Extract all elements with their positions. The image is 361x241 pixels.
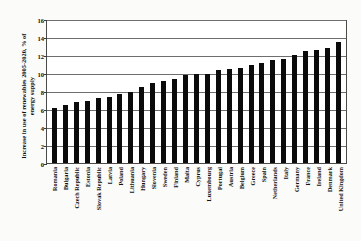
bar-cell	[300, 21, 311, 163]
bar	[336, 42, 341, 164]
bar-cell	[115, 21, 126, 163]
x-tick-label: Czech Republic	[72, 167, 79, 208]
x-tick-label: United Kingdom	[336, 167, 343, 211]
bar	[74, 102, 79, 163]
bar	[172, 79, 177, 163]
x-tick-label: Austria	[226, 167, 233, 187]
x-tick-label: Poland	[116, 167, 123, 186]
x-label-cell: Romania	[48, 166, 59, 240]
x-tick-label: Slovak Republic	[94, 167, 101, 210]
bar	[227, 69, 232, 164]
bar	[161, 81, 166, 163]
bar-cell	[322, 21, 333, 163]
x-tick-label: Romania	[50, 167, 57, 191]
x-label-cell: Czech Republic	[70, 166, 81, 240]
bar	[238, 68, 243, 163]
bar	[216, 70, 221, 163]
bar	[107, 97, 112, 163]
bar-cell	[202, 21, 213, 163]
bar	[314, 50, 319, 163]
bar-cell	[82, 21, 93, 163]
bar	[150, 83, 155, 163]
bar-cell	[257, 21, 268, 163]
bar-cell	[71, 21, 82, 163]
x-tick-label: Hungary	[138, 167, 145, 191]
x-label-cell: Hungary	[136, 166, 147, 240]
x-tick-label: Portugal	[215, 167, 222, 190]
x-axis-tick-labels: RomaniaBulgariaCzech RepublicEstoniaSlov…	[46, 166, 347, 240]
bar	[325, 48, 330, 163]
x-label-cell: Spain	[257, 166, 268, 240]
x-tick-label: Finland	[171, 167, 178, 188]
x-tick-label: Italy	[281, 167, 288, 179]
x-label-cell: France	[301, 166, 312, 240]
y-tick-label-2: 2	[30, 143, 44, 150]
x-label-cell: Slovak Republic	[92, 166, 103, 240]
x-label-cell: Austria	[224, 166, 235, 240]
x-tick-label: Netherlands	[270, 167, 277, 199]
x-tick-label: Latvia	[105, 167, 112, 184]
x-tick-label: Malta	[182, 167, 189, 183]
bar-cell	[311, 21, 322, 163]
x-tick-label: Ireland	[314, 167, 321, 186]
bar-series	[47, 21, 346, 163]
bar-cell	[235, 21, 246, 163]
bar-cell	[180, 21, 191, 163]
x-label-cell: Denmark	[323, 166, 334, 240]
bar-cell	[333, 21, 344, 163]
y-tick-label-10: 10	[30, 71, 44, 78]
bar	[281, 59, 286, 163]
y-tick-label-6: 6	[30, 107, 44, 114]
bar	[205, 74, 210, 163]
x-label-cell: Sweden	[158, 166, 169, 240]
x-tick-label: Lithuania	[127, 167, 134, 193]
x-label-cell: Bulgaria	[59, 166, 70, 240]
plot-area	[46, 20, 347, 164]
bar-cell	[60, 21, 71, 163]
bar	[249, 65, 254, 163]
bar	[183, 75, 188, 163]
bar	[63, 105, 68, 164]
x-label-cell: Lithuania	[125, 166, 136, 240]
x-label-cell: Greece	[246, 166, 257, 240]
x-tick-label: Germany	[292, 167, 299, 192]
bar-cell	[147, 21, 158, 163]
bar	[139, 87, 144, 164]
x-tick-label: Belgium	[237, 167, 244, 189]
y-tick-label-0: 0	[30, 161, 44, 168]
y-tick-label-14: 14	[30, 35, 44, 42]
x-label-cell: United Kingdom	[334, 166, 345, 240]
bar	[194, 74, 199, 163]
x-label-cell: Poland	[114, 166, 125, 240]
chart-figure: Increase in use of renewables 2005-2020,…	[0, 0, 361, 241]
x-label-cell: Malta	[180, 166, 191, 240]
bar-cell	[267, 21, 278, 163]
bar	[96, 98, 101, 163]
bar-cell	[125, 21, 136, 163]
x-tick-label: Sweden	[160, 167, 167, 187]
x-label-cell: Luxembourg	[202, 166, 213, 240]
x-tick-label: Spain	[259, 167, 266, 182]
bar-cell	[213, 21, 224, 163]
x-tick-label: Cyprus	[193, 167, 200, 187]
bar-cell	[104, 21, 115, 163]
y-tick-label-12: 12	[30, 53, 44, 60]
x-tick-label: Greece	[248, 167, 255, 185]
y-tick-label-4: 4	[30, 125, 44, 132]
bar	[292, 55, 297, 163]
y-tickmark-0	[44, 164, 47, 165]
y-axis-tick-labels: 0246810121416	[30, 20, 44, 164]
bar-cell	[289, 21, 300, 163]
bar	[117, 94, 122, 163]
bar-cell	[49, 21, 60, 163]
bar	[303, 51, 308, 163]
y-tick-label-8: 8	[30, 89, 44, 96]
bar	[85, 101, 90, 163]
x-tick-label: Bulgaria	[61, 167, 68, 190]
y-axis-title-line1: Increase in use of renewables 2005-2020,…	[20, 34, 27, 159]
bar	[259, 63, 264, 163]
x-label-cell: Portugal	[213, 166, 224, 240]
x-label-cell: Italy	[279, 166, 290, 240]
x-tick-label: Luxembourg	[204, 167, 211, 201]
x-tick-label: Slovenia	[149, 167, 156, 189]
